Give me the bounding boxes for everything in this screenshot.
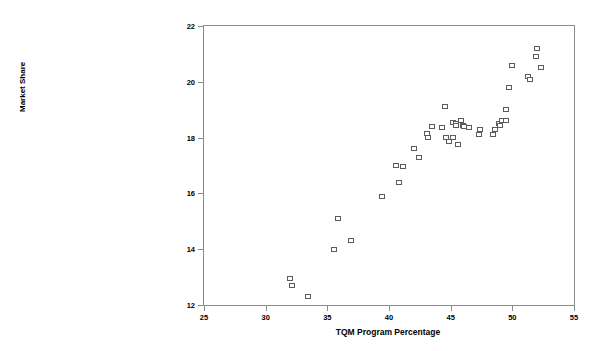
data-point (455, 142, 461, 147)
data-point (527, 77, 533, 82)
data-point (439, 125, 445, 130)
x-axis-tick-label: 30 (261, 313, 269, 322)
x-axis-tick (327, 305, 328, 311)
y-axis-tick (198, 26, 204, 27)
x-axis-tick (389, 305, 390, 311)
x-axis-tick-label: 55 (570, 313, 578, 322)
y-axis-tick-label: 18 (187, 133, 195, 142)
data-point (490, 132, 496, 137)
data-point (442, 104, 448, 109)
data-point (400, 164, 406, 169)
data-point (335, 216, 341, 221)
y-axis-tick (198, 82, 204, 83)
data-point (411, 146, 417, 151)
y-axis-title: Market Share (18, 62, 27, 112)
x-axis-tick-label: 45 (446, 313, 454, 322)
data-point (476, 132, 482, 137)
scatter-plot-figure: 121416182022 25303540455055 TQM Program … (0, 0, 606, 351)
data-point (503, 118, 509, 123)
data-point (393, 163, 399, 168)
y-axis-tick-label: 22 (187, 22, 195, 31)
data-point (506, 85, 512, 90)
data-point (424, 131, 430, 136)
x-axis-title: TQM Program Percentage (203, 327, 573, 337)
data-point (450, 135, 456, 140)
data-point (379, 194, 385, 199)
data-point (477, 127, 483, 132)
data-point (331, 247, 337, 252)
y-axis-tick (198, 138, 204, 139)
data-point (453, 123, 459, 128)
data-point (396, 180, 402, 185)
data-point (416, 155, 422, 160)
y-axis-tick-label: 16 (187, 189, 195, 198)
data-point (466, 125, 472, 130)
y-axis-tick (198, 249, 204, 250)
data-point (534, 46, 540, 51)
data-point (533, 54, 539, 59)
x-axis-tick (574, 305, 575, 311)
y-axis-tick-label: 14 (187, 245, 195, 254)
x-axis-tick-label: 25 (200, 313, 208, 322)
y-axis-tick (198, 193, 204, 194)
x-axis-tick-label: 35 (323, 313, 331, 322)
y-axis-tick-label: 12 (187, 301, 195, 310)
data-point (348, 238, 354, 243)
data-point (429, 124, 435, 129)
y-axis-tick-label: 20 (187, 77, 195, 86)
data-point (287, 276, 293, 281)
data-point (509, 63, 515, 68)
plot-area: 121416182022 25303540455055 (203, 25, 575, 306)
x-axis-tick (266, 305, 267, 311)
x-axis-tick (451, 305, 452, 311)
data-point (503, 107, 509, 112)
x-axis-tick-label: 40 (385, 313, 393, 322)
x-axis-tick-label: 50 (508, 313, 516, 322)
data-point (538, 65, 544, 70)
data-point (289, 283, 295, 288)
data-point (305, 294, 311, 299)
x-axis-tick (204, 305, 205, 311)
x-axis-tick (512, 305, 513, 311)
